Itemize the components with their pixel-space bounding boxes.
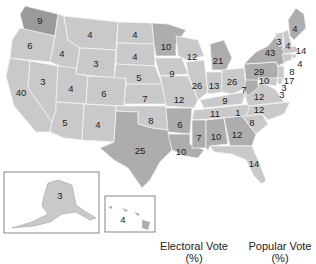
- votes-ME: 4: [292, 23, 297, 34]
- votes-ID: 4: [59, 48, 64, 59]
- votes-RI: 4: [297, 58, 302, 69]
- votes-OH: 26: [227, 76, 238, 87]
- votes-AK: 3: [57, 190, 62, 201]
- votes-WI: 12: [187, 51, 198, 62]
- votes-NM: 4: [95, 119, 100, 130]
- votes-MO: 12: [174, 94, 185, 105]
- votes-NY: 43: [265, 47, 276, 58]
- votes-ND: 4: [132, 29, 137, 40]
- popular-vote-label: Popular Vote (%): [244, 240, 316, 264]
- votes-DC: 3: [279, 89, 284, 100]
- votes-OK: 8: [148, 115, 153, 126]
- votes-MS: 7: [196, 132, 201, 143]
- votes-NH: 4: [285, 40, 290, 51]
- votes-NE: 5: [136, 72, 141, 83]
- votes-VA: 12: [254, 91, 265, 102]
- popular-vote-unit: (%): [244, 252, 316, 264]
- votes-NC: 12: [254, 104, 265, 115]
- votes-WA: 9: [37, 15, 42, 26]
- votes-OR: 6: [27, 40, 32, 51]
- votes-DC-extra: 1: [235, 107, 240, 118]
- votes-UT: 4: [68, 83, 73, 94]
- votes-NV: 3: [40, 76, 45, 87]
- votes-SD: 4: [132, 51, 137, 62]
- electoral-vote-unit: (%): [150, 252, 238, 264]
- state-CT[interactable]: [282, 54, 292, 62]
- votes-TN: 11: [210, 108, 220, 119]
- votes-MT: 4: [87, 29, 92, 40]
- votes-LA: 10: [176, 146, 187, 157]
- electoral-vote-title: Electoral Vote: [150, 240, 238, 252]
- votes-SC: 8: [249, 117, 254, 128]
- votes-MI: 21: [213, 55, 224, 66]
- votes-WY: 3: [93, 58, 98, 69]
- votes-IN: 13: [209, 80, 220, 91]
- votes-TX: 25: [135, 145, 146, 156]
- votes-FL: 14: [249, 158, 260, 169]
- votes-KY: 9: [222, 95, 227, 106]
- votes-IL: 26: [192, 80, 203, 91]
- votes-CO: 6: [101, 88, 106, 99]
- votes-AL: 10: [211, 131, 222, 142]
- votes-AZ: 5: [62, 117, 67, 128]
- votes-MN: 10: [161, 41, 172, 52]
- votes-IA: 9: [169, 68, 174, 79]
- votes-MD: 10: [259, 75, 270, 86]
- votes-MA: 14: [296, 45, 307, 56]
- votes-HI: 4: [120, 214, 125, 225]
- votes-GA: 12: [232, 129, 243, 140]
- popular-vote-title: Popular Vote: [244, 240, 316, 252]
- votes-WV: 7: [241, 84, 246, 95]
- votes-CA: 40: [16, 87, 27, 98]
- votes-VT: 3: [276, 36, 281, 47]
- votes-KS: 7: [142, 93, 147, 104]
- electoral-vote-label: Electoral Vote (%): [150, 240, 238, 264]
- votes-AR: 6: [177, 119, 182, 130]
